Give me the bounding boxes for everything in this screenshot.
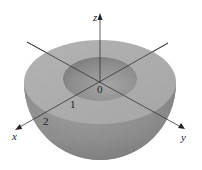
x-axis-label: x [11,130,17,142]
y-axis-label: y [180,131,186,143]
z-axis-label: z [92,11,98,23]
tick-label-2: 2 [43,115,49,127]
z-arrow-icon [98,13,103,20]
origin-label: 0 [97,83,103,95]
tick-label-1: 1 [70,98,76,110]
hemisphere-diagram: z x y 0 1 2 [0,0,202,170]
